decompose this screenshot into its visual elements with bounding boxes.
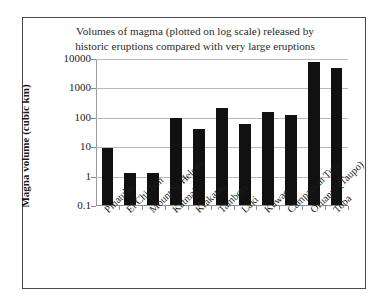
y-axis-tick-label: 1000	[41, 81, 91, 93]
y-axis-tick-label: 0.1	[41, 199, 91, 211]
chart-title: Volumes of magma (plotted on log scale) …	[37, 24, 353, 54]
x-axis-tick-labels: PinatuboEl ChichonMount St HelensKatmaiK…	[96, 207, 348, 297]
chart-frame: Volumes of magma (plotted on log scale) …	[22, 17, 366, 289]
y-axis-tick-label: 100	[41, 111, 91, 123]
y-axis-tick-label: 10000	[41, 52, 91, 64]
y-axis-title: Magna volume (cubic km)	[19, 76, 31, 216]
bar	[262, 112, 274, 205]
gridline	[96, 59, 348, 60]
chart-title-line-1: Volumes of magma (plotted on log scale) …	[37, 24, 353, 39]
x-axis-tick-mark	[348, 206, 349, 210]
y-axis-tick-label: 1	[41, 170, 91, 182]
y-axis-line	[96, 59, 97, 206]
y-axis-tick-label: 10	[41, 140, 91, 152]
y-axis-tick-labels: 1000010001001010.1	[39, 59, 91, 206]
